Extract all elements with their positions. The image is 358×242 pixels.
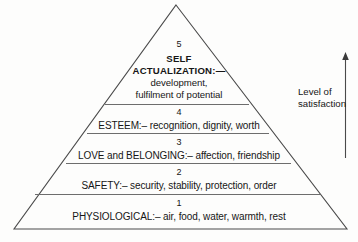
level-3-text: LOVE and BELONGING:– affection, friendsh… <box>0 151 358 161</box>
level-5-line-2: ACTUALIZATION:— <box>0 66 358 76</box>
level-2-text: SAFETY:– security, stability, protection… <box>0 181 358 191</box>
level-5-number: 5 <box>0 40 358 49</box>
maslow-pyramid-diagram: 5 SELF ACTUALIZATION:— development, fulf… <box>0 0 358 242</box>
axis-label-line-2: satisfaction <box>298 98 346 110</box>
level-1-text: PHYSIOLOGICAL:– air, food, water, warmth… <box>0 212 358 222</box>
level-4-text: ESTEEM:– recognition, dignity, worth <box>0 121 358 131</box>
level-of-satisfaction-label: Level of satisfaction <box>298 86 346 110</box>
level-2-number: 2 <box>0 168 358 177</box>
level-5-line-1: SELF <box>0 54 358 64</box>
level-3-number: 3 <box>0 138 358 147</box>
level-1-number: 1 <box>0 199 358 208</box>
axis-label-line-1: Level of <box>298 86 346 98</box>
